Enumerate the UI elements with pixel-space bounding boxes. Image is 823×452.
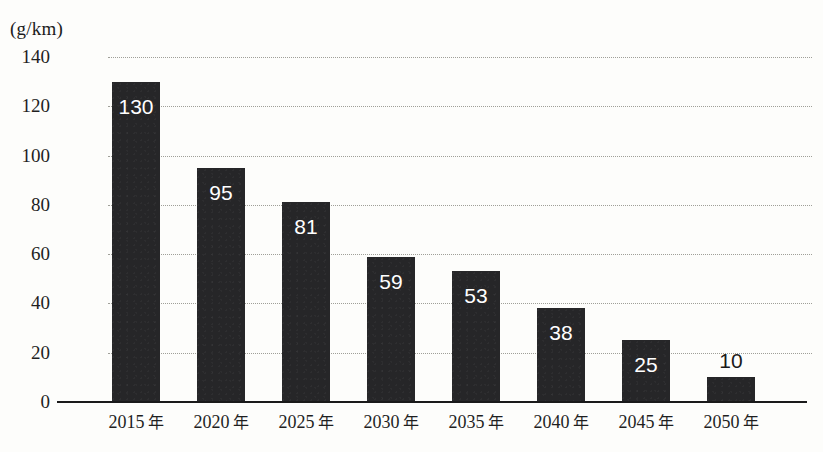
- bar: 59: [367, 257, 415, 402]
- y-axis-tick-label: 40: [6, 292, 50, 314]
- x-axis-tick-label: 2015年: [109, 409, 164, 433]
- x-axis-tick-label: 2020年: [194, 409, 249, 433]
- bar: 130: [112, 82, 160, 402]
- x-axis-tick-label: 2025年: [279, 409, 334, 433]
- plot-area: 13095815953382510: [57, 57, 813, 402]
- y-axis-unit-label: (g/km): [10, 18, 63, 40]
- gridline: [108, 156, 812, 157]
- bar: 38: [537, 308, 585, 402]
- bar-value-label: 38: [549, 322, 572, 343]
- x-axis-tick-label: 2040年: [534, 409, 589, 433]
- bar-value-label: 130: [118, 96, 153, 117]
- bar-value-label: 10: [719, 350, 742, 371]
- y-axis-tick-labels: 140120100806040200: [0, 57, 50, 402]
- y-axis-tick-label: 120: [6, 95, 50, 117]
- y-axis-tick-label: 20: [6, 342, 50, 364]
- bar-value-label: 53: [464, 285, 487, 306]
- bar: 81: [282, 202, 330, 402]
- bar-value-label: 81: [294, 216, 317, 237]
- bar-value-label: 95: [209, 182, 232, 203]
- gridline: [108, 57, 812, 58]
- bar: 10: [707, 377, 755, 402]
- bar-value-label: 59: [379, 271, 402, 292]
- x-axis-tick-labels: 2015年2020年2025年2030年2035年2040年2045年2050年: [0, 409, 823, 443]
- x-axis-tick-label: 2045年: [619, 409, 674, 433]
- gridline: [108, 106, 812, 107]
- x-axis-tick-label: 2035年: [449, 409, 504, 433]
- bar-chart: (g/km) 140120100806040200 13095815953382…: [0, 0, 823, 452]
- bar: 25: [622, 340, 670, 402]
- y-axis-tick-label: 140: [6, 46, 50, 68]
- bar: 53: [452, 271, 500, 402]
- y-axis-tick-label: 60: [6, 243, 50, 265]
- x-axis-tick-label: 2030年: [364, 409, 419, 433]
- x-axis-tick-label: 2050年: [704, 409, 759, 433]
- bar-value-label: 25: [634, 354, 657, 375]
- y-axis-tick-label: 100: [6, 145, 50, 167]
- bar: 95: [197, 168, 245, 402]
- y-axis-tick-label: 80: [6, 194, 50, 216]
- x-axis-line: [57, 401, 807, 403]
